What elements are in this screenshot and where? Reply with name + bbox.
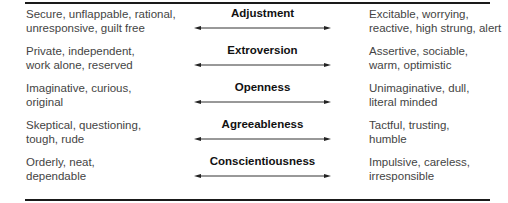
- high-pole-description: Unimaginative, dull, literal minded: [369, 82, 469, 109]
- high-pole-line: reactive, high strung, alert: [369, 22, 501, 36]
- trait-row-agreeableness: Skeptical, questioning, tough, rude Agre…: [0, 119, 508, 156]
- high-pole-line: Tactful, trusting,: [369, 119, 450, 133]
- high-pole-line: humble: [369, 133, 450, 147]
- high-pole-line: Assertive, sociable,: [369, 45, 468, 59]
- low-pole-line: Orderly, neat,: [26, 156, 95, 170]
- low-pole-line: work alone, reserved: [26, 59, 135, 73]
- high-pole-line: Impulsive, careless,: [369, 156, 470, 170]
- trait-row-conscientiousness: Orderly, neat, dependable Conscientiousn…: [0, 156, 508, 193]
- low-pole-line: Secure, unflappable, rational,: [26, 8, 176, 22]
- high-pole-description: Tactful, trusting, humble: [369, 119, 450, 146]
- trait-label: Openness: [194, 81, 331, 93]
- high-pole-description: Impulsive, careless, irresponsible: [369, 156, 470, 183]
- trait-label: Agreeableness: [194, 118, 331, 130]
- double-headed-arrow-icon: [194, 172, 331, 180]
- double-headed-arrow-icon: [194, 61, 331, 69]
- double-headed-arrow-icon: [194, 135, 331, 143]
- high-pole-description: Excitable, worrying, reactive, high stru…: [369, 8, 501, 35]
- low-pole-description: Private, independent, work alone, reserv…: [26, 45, 135, 72]
- low-pole-line: original: [26, 96, 131, 110]
- low-pole-description: Imaginative, curious, original: [26, 82, 131, 109]
- high-pole-line: literal minded: [369, 96, 469, 110]
- low-pole-line: unresponsive, guilt free: [26, 22, 176, 36]
- bottom-rule: [25, 199, 490, 201]
- low-pole-description: Secure, unflappable, rational, unrespons…: [26, 8, 176, 35]
- high-pole-line: Excitable, worrying,: [369, 8, 501, 22]
- trait-row-adjustment: Secure, unflappable, rational, unrespons…: [0, 8, 508, 45]
- low-pole-description: Orderly, neat, dependable: [26, 156, 95, 183]
- trait-label: Adjustment: [194, 7, 331, 19]
- high-pole-description: Assertive, sociable, warm, optimistic: [369, 45, 468, 72]
- low-pole-line: Imaginative, curious,: [26, 82, 131, 96]
- low-pole-line: Private, independent,: [26, 45, 135, 59]
- top-rule: [25, 2, 490, 4]
- trait-label: Conscientiousness: [194, 155, 331, 167]
- low-pole-line: Skeptical, questioning,: [26, 119, 141, 133]
- low-pole-line: tough, rude: [26, 133, 141, 147]
- high-pole-line: irresponsible: [369, 170, 470, 184]
- double-headed-arrow-icon: [194, 98, 331, 106]
- low-pole-line: dependable: [26, 170, 95, 184]
- double-headed-arrow-icon: [194, 24, 331, 32]
- trait-row-extroversion: Private, independent, work alone, reserv…: [0, 45, 508, 82]
- trait-label: Extroversion: [194, 44, 331, 56]
- trait-row-openness: Imaginative, curious, original Openness …: [0, 82, 508, 119]
- high-pole-line: warm, optimistic: [369, 59, 468, 73]
- low-pole-description: Skeptical, questioning, tough, rude: [26, 119, 141, 146]
- high-pole-line: Unimaginative, dull,: [369, 82, 469, 96]
